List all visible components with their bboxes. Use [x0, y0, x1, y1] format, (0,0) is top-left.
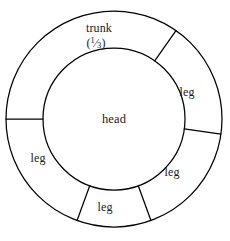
divider-bottom-left	[77, 186, 90, 221]
sector-divider-group	[6, 31, 221, 221]
divider-top-right	[155, 31, 176, 61]
trunk-label-text: trunk	[86, 21, 112, 35]
sector-label-leg-bottom: leg	[98, 201, 113, 214]
sector-label-leg-left-lower: leg	[31, 152, 46, 165]
center-label-head: head	[102, 113, 126, 126]
fraction-one-third: (1⁄3)	[86, 36, 105, 50]
body-proportion-ring-diagram: trunk (1⁄3) head leg leg leg leg	[0, 0, 230, 241]
sector-label-leg-right-lower: leg	[165, 166, 180, 179]
divider-bottom-right	[138, 186, 151, 221]
sector-label-trunk: trunk	[86, 21, 112, 35]
fraction-denominator: 3	[97, 40, 101, 50]
sector-label-leg-right-upper: leg	[180, 86, 195, 99]
divider-right	[184, 129, 221, 134]
sector-label-trunk-fraction: (1⁄3)	[86, 36, 105, 50]
